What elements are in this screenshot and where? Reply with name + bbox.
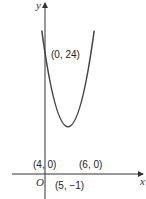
x-axis-label: x	[139, 175, 145, 187]
parabola-graph: y x O (0, 24) (4, 0) (6, 0) (5, −1)	[0, 0, 146, 199]
point-label-6-0: (6, 0)	[79, 159, 102, 170]
point-label-0-24: (0, 24)	[51, 49, 80, 60]
point-label-5-neg1: (5, −1)	[55, 180, 84, 191]
y-axis-label: y	[35, 0, 41, 11]
origin-label: O	[36, 176, 44, 188]
parabola-curve	[42, 31, 94, 127]
point-label-4-0: (4, 0)	[33, 159, 56, 170]
